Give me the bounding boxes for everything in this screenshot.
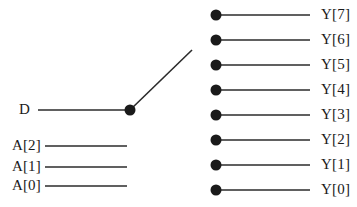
data-input-label: D [0, 102, 30, 117]
output-node-Y[6][interactable] [211, 35, 222, 46]
output-node-Y[7][interactable] [211, 10, 222, 21]
switch-pivot-node[interactable] [125, 105, 136, 116]
demux-switch-diagram: DA[2]A[1]A[0]Y[7]Y[6]Y[5]Y[4]Y[3]Y[2]Y[1… [0, 0, 357, 207]
output-node-Y[0][interactable] [211, 185, 222, 196]
output-label-Y[2]: Y[2] [321, 132, 350, 147]
output-label-Y[4]: Y[4] [321, 82, 350, 97]
nodes-group [125, 10, 222, 196]
address-input-label-A[2]: A[2] [0, 138, 41, 153]
output-label-Y[3]: Y[3] [321, 107, 350, 122]
output-label-Y[0]: Y[0] [321, 182, 350, 197]
output-label-Y[5]: Y[5] [321, 57, 350, 72]
address-input-label-A[0]: A[0] [0, 178, 41, 193]
output-node-Y[1][interactable] [211, 160, 222, 171]
output-node-Y[3][interactable] [211, 110, 222, 121]
output-node-Y[4][interactable] [211, 85, 222, 96]
address-input-label-A[1]: A[1] [0, 159, 41, 174]
diagram-canvas [0, 0, 357, 207]
output-label-Y[6]: Y[6] [321, 32, 350, 47]
output-node-Y[5][interactable] [211, 60, 222, 71]
output-node-Y[2][interactable] [211, 135, 222, 146]
output-label-Y[7]: Y[7] [321, 7, 350, 22]
output-label-Y[1]: Y[1] [321, 157, 350, 172]
switch-arm [130, 50, 192, 110]
wires-group [38, 15, 310, 190]
